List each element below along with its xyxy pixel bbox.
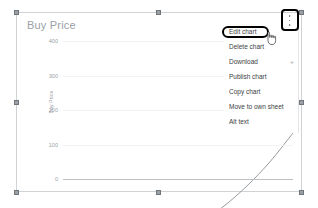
selection-handle-bottom-center[interactable]	[156, 190, 161, 195]
selection-handle-top-left[interactable]	[14, 10, 19, 15]
menu-item-label: Delete chart	[229, 43, 264, 50]
menu-item-label: Edit chart	[229, 28, 256, 35]
menu-item-label: Alt text	[229, 118, 249, 125]
more-vert-icon[interactable]	[285, 12, 294, 29]
gridline: 100	[63, 145, 293, 146]
menu-item-label: Publish chart	[229, 73, 267, 80]
x-axis-line: 0	[63, 179, 293, 180]
more-vert-dot-1	[289, 15, 291, 17]
y-axis-tick-label: 400	[49, 38, 58, 44]
selection-handle-middle-right[interactable]	[299, 100, 304, 105]
menu-item-publish-chart[interactable]: Publish chart	[224, 69, 298, 84]
menu-item-alt-text[interactable]: Alt text	[224, 114, 298, 129]
y-axis-tick-label: 300	[49, 73, 58, 79]
chevron-right-icon: ▸	[291, 54, 294, 69]
menu-item-move-to-own-sheet[interactable]: Move to own sheet	[224, 99, 298, 114]
more-vert-dot-2	[289, 20, 291, 22]
menu-item-label: Move to own sheet	[229, 103, 284, 110]
menu-divider	[298, 22, 299, 133]
more-vert-dot-3	[289, 24, 291, 26]
menu-item-copy-chart[interactable]: Copy chart	[224, 84, 298, 99]
y-axis-tick-label: 0	[55, 176, 58, 182]
y-axis-tick-label: 100	[49, 142, 58, 148]
chart-title: Buy Price	[27, 19, 76, 31]
selection-handle-top-right[interactable]	[299, 10, 304, 15]
selection-handle-top-center[interactable]	[156, 10, 161, 15]
selection-handle-middle-left[interactable]	[14, 100, 19, 105]
menu-item-label: Download	[229, 58, 258, 65]
y-axis-tick-label: 200	[49, 107, 58, 113]
menu-item-delete-chart[interactable]: Delete chart	[224, 39, 298, 54]
selection-handle-bottom-left[interactable]	[14, 190, 19, 195]
menu-item-label: Copy chart	[229, 88, 260, 95]
menu-item-download[interactable]: Download▸	[224, 54, 298, 69]
selection-handle-bottom-right[interactable]	[299, 190, 304, 195]
chart-context-menu[interactable]: Edit chartDelete chartDownload▸Publish c…	[224, 22, 298, 133]
